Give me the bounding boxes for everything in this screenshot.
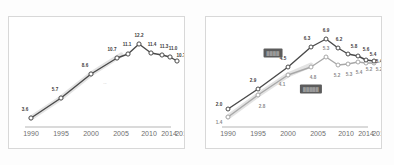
axis-tick: 2010 bbox=[141, 130, 157, 137]
data-label: 11.1 bbox=[123, 42, 132, 47]
data-label: 6.3 bbox=[304, 36, 310, 41]
data-label: 5.2 bbox=[334, 73, 340, 78]
axis-tick: 2005 bbox=[113, 130, 129, 137]
data-label: 12.2 bbox=[135, 33, 144, 38]
axis-tick: 1990 bbox=[23, 130, 39, 137]
data-label: 6.9 bbox=[323, 28, 329, 33]
data-label: 10.7 bbox=[108, 47, 117, 52]
data-label: 4.8 bbox=[310, 75, 316, 80]
series-badge-dark: ████ bbox=[264, 49, 283, 58]
data-label: 5.7 bbox=[52, 87, 58, 92]
data-label: 3.6 bbox=[22, 107, 28, 112]
data-label: 6.2 bbox=[336, 37, 342, 42]
trend-band-right bbox=[228, 65, 311, 117]
axis-tick: 1990 bbox=[220, 130, 236, 137]
axis-tick: 2000 bbox=[280, 130, 296, 137]
data-label: 5.2 bbox=[376, 67, 382, 72]
data-label: 2.8 bbox=[259, 104, 265, 109]
data-label: 5.3 bbox=[323, 46, 329, 51]
data-label: 1.4 bbox=[216, 120, 222, 125]
data-label: 8.6 bbox=[82, 63, 88, 68]
axis-tick: 1995 bbox=[250, 130, 266, 137]
data-label: 11.4 bbox=[148, 42, 157, 47]
plot-area-right bbox=[206, 17, 381, 148]
data-label: 10.7 bbox=[177, 53, 185, 58]
data-label: 5.6 bbox=[363, 47, 369, 52]
data-label: 2.9 bbox=[250, 78, 256, 83]
axis-tick: 1995 bbox=[53, 130, 69, 137]
chart-panel-right: 2.0 2.9 4.5 6.3 6.9 6.2 5.8 5.6 5.4 5.4 … bbox=[205, 16, 382, 149]
x-axis-labels-left: 1990 1995 2000 2005 2010 2014 2016 bbox=[9, 130, 184, 142]
data-label: 2.0 bbox=[216, 102, 222, 107]
data-label: 4.1 bbox=[279, 82, 285, 87]
axis-tick: 2010 bbox=[338, 130, 354, 137]
data-label: 5.4 bbox=[370, 52, 376, 57]
data-label: 5.4 bbox=[376, 59, 382, 64]
data-label: 5.3 bbox=[346, 72, 352, 77]
data-label: 11.0 bbox=[169, 46, 178, 51]
plot-area-left bbox=[9, 17, 184, 148]
trend-annotation: ... bbox=[103, 81, 107, 85]
data-label: 5.4 bbox=[356, 70, 362, 75]
data-label: 11.3 bbox=[160, 44, 169, 49]
axis-tick: 2016 bbox=[372, 130, 382, 137]
chart-panel-left: 3.6 5.7 8.6 10.7 11.1 12.2 11.4 11.3 11.… bbox=[8, 16, 185, 149]
data-label: 5.8 bbox=[351, 44, 357, 49]
axis-tick: 2016 bbox=[175, 130, 185, 137]
axis-tick: 2000 bbox=[83, 130, 99, 137]
x-axis-labels-right: 1990 1995 2000 2005 2010 2014 2016 bbox=[206, 130, 381, 142]
series-badge-light: █████ bbox=[300, 85, 322, 94]
axis-tick: 2005 bbox=[310, 130, 326, 137]
figure-root: 3.6 5.7 8.6 10.7 11.1 12.2 11.4 11.3 11.… bbox=[0, 0, 394, 165]
data-label: 5.2 bbox=[366, 67, 372, 72]
